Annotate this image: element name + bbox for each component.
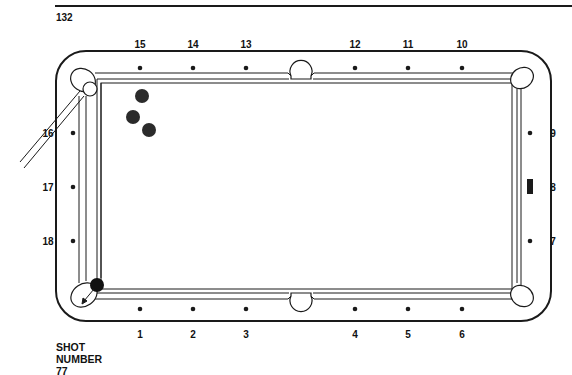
diamond-label-17: 17 bbox=[42, 182, 53, 193]
pocket-top-right bbox=[506, 63, 537, 93]
diamond-label-15: 15 bbox=[134, 39, 145, 50]
diamond-label-2: 2 bbox=[190, 329, 196, 340]
diamond-label-3: 3 bbox=[243, 329, 249, 340]
diamond-label-1: 1 bbox=[137, 329, 143, 340]
diamond-label-18: 18 bbox=[42, 236, 53, 247]
diamond-label-14: 14 bbox=[187, 39, 198, 50]
table-outline bbox=[56, 51, 551, 321]
diamond-label-11: 11 bbox=[403, 39, 414, 50]
diamond-label-8: 8 bbox=[550, 182, 556, 193]
diamond-label-7: 7 bbox=[550, 236, 556, 247]
diamond-label-10: 10 bbox=[456, 39, 467, 50]
pocket-bottom-right bbox=[506, 281, 537, 311]
pool-table-diagram bbox=[0, 0, 572, 375]
shot-caption: SHOT NUMBER 77 bbox=[56, 341, 102, 375]
diamond-label-6: 6 bbox=[459, 329, 465, 340]
shot-caption-line2: NUMBER bbox=[56, 353, 102, 365]
diamond-label-12: 12 bbox=[349, 39, 360, 50]
pocket-bottom-middle bbox=[290, 293, 312, 312]
rail-marker-8 bbox=[527, 179, 533, 194]
shot-caption-line1: SHOT bbox=[56, 341, 102, 353]
diamond-label-4: 4 bbox=[352, 329, 358, 340]
diamond-label-5: 5 bbox=[405, 329, 411, 340]
object-balls bbox=[126, 89, 156, 137]
diamond-label-16: 16 bbox=[42, 128, 53, 139]
shot-number: 77 bbox=[56, 365, 102, 375]
pocket-top-middle bbox=[290, 60, 312, 79]
diamond-label-9: 9 bbox=[550, 128, 556, 139]
cue-ball bbox=[83, 82, 97, 96]
diamond-label-13: 13 bbox=[240, 39, 251, 50]
target-ball bbox=[90, 278, 104, 292]
